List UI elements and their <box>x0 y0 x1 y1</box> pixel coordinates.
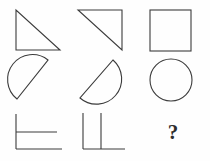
right-triangle-icon <box>0 0 70 55</box>
puzzle-cell-r1c1[interactable] <box>0 0 70 55</box>
puzzle-cell-r2c3[interactable] <box>140 55 210 108</box>
right-triangle-icon <box>70 0 140 55</box>
square-icon <box>140 0 210 55</box>
puzzle-grid: ? <box>0 0 210 161</box>
puzzle-cell-r2c2[interactable] <box>70 55 140 108</box>
missing-answer-placeholder: ? <box>140 108 210 161</box>
puzzle-cell-r3c3[interactable]: ? <box>140 108 210 161</box>
circle-icon <box>140 55 210 108</box>
puzzle-cell-r1c3[interactable] <box>140 0 210 55</box>
shape-matrix-puzzle: ? <box>0 0 210 161</box>
question-mark-label: ? <box>168 122 179 143</box>
open-bracket-lines-rotated-icon <box>70 108 140 161</box>
semicircle-icon <box>70 55 140 108</box>
puzzle-cell-r1c2[interactable] <box>70 0 140 55</box>
semicircle-icon <box>0 55 70 108</box>
puzzle-cell-r3c1[interactable] <box>0 108 70 161</box>
puzzle-cell-r3c2[interactable] <box>70 108 140 161</box>
open-bracket-lines-icon <box>0 108 70 161</box>
puzzle-cell-r2c1[interactable] <box>0 55 70 108</box>
